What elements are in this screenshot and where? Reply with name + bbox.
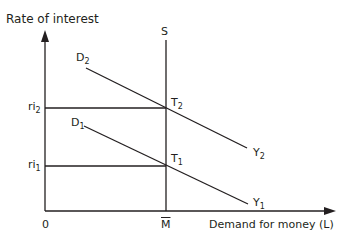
ri2-label: ri2 bbox=[28, 101, 41, 115]
m-bar-label: M bbox=[161, 219, 171, 230]
t1-label: T1 bbox=[171, 153, 183, 167]
x-axis-arrow-icon bbox=[324, 207, 336, 215]
x-axis-label: Demand for money (L) bbox=[209, 219, 334, 230]
t2-label: T2 bbox=[171, 97, 183, 111]
d2-label: D2 bbox=[76, 52, 90, 66]
diagram-canvas bbox=[0, 0, 347, 242]
supply-label: S bbox=[161, 26, 168, 37]
y2-label: Y2 bbox=[253, 147, 265, 161]
y-axis-arrow-icon bbox=[41, 30, 49, 42]
y-axis-label: Rate of interest bbox=[6, 13, 99, 25]
d1-label: D1 bbox=[71, 117, 85, 131]
origin-label: 0 bbox=[42, 219, 49, 230]
ri1-label: ri1 bbox=[28, 159, 41, 173]
y1-label: Y1 bbox=[253, 197, 265, 211]
